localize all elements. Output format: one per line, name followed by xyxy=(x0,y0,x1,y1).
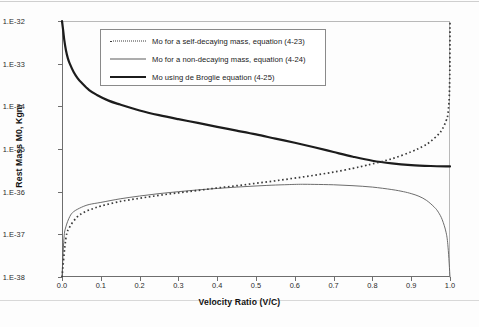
x-tick-mark xyxy=(140,277,141,281)
legend-swatch-thick-line-icon xyxy=(110,72,146,82)
y-tick-label: 1.E-34 xyxy=(3,102,25,111)
x-tick-mark xyxy=(450,277,451,281)
legend-swatch-thin-line-icon xyxy=(110,54,146,64)
x-tick-label: 0.1 xyxy=(86,281,116,290)
x-tick-label: 0.3 xyxy=(163,281,193,290)
chart-legend: Mo for a self-decaying mass, equation (4… xyxy=(100,29,326,86)
y-tick-label: 1.E-32 xyxy=(3,17,25,26)
x-tick-mark xyxy=(372,277,373,281)
legend-label-self-decaying: Mo for a self-decaying mass, equation (4… xyxy=(152,37,305,46)
x-tick-label: 0.0 xyxy=(47,281,77,290)
legend-entry-self-decaying: Mo for a self-decaying mass, equation (4… xyxy=(101,32,325,50)
legend-label-non-decaying: Mo for a non-decaying mass, equation (4-… xyxy=(152,55,306,64)
x-tick-mark xyxy=(411,277,412,281)
x-tick-mark xyxy=(295,277,296,281)
x-tick-mark xyxy=(217,277,218,281)
x-tick-mark xyxy=(334,277,335,281)
x-axis-title: Velocity Ratio (V/C) xyxy=(0,297,479,307)
x-tick-label: 0.8 xyxy=(357,281,387,290)
y-tick-label: 1.E-33 xyxy=(3,60,25,69)
legend-label-de-broglie: Mo using de Broglie equation (4-25) xyxy=(152,73,274,82)
x-tick-mark xyxy=(101,277,102,281)
y-tick-label: 1.E-36 xyxy=(3,188,25,197)
x-tick-label: 0.9 xyxy=(396,281,426,290)
legend-swatch-dotted-icon xyxy=(110,36,146,46)
x-tick-mark xyxy=(256,277,257,281)
y-tick-label: 1.E-35 xyxy=(3,145,25,154)
x-tick-label: 1.0 xyxy=(435,281,465,290)
x-tick-mark xyxy=(178,277,179,281)
chart-figure: Rest Mass M0, Kgm Velocity Ratio (V/C) 1… xyxy=(0,0,479,327)
x-tick-label: 0.2 xyxy=(125,281,155,290)
x-tick-label: 0.5 xyxy=(241,281,271,290)
y-tick-label: 1.E-38 xyxy=(3,273,25,282)
x-tick-label: 0.4 xyxy=(202,281,232,290)
y-tick-label: 1.E-37 xyxy=(3,230,25,239)
legend-entry-de-broglie: Mo using de Broglie equation (4-25) xyxy=(101,68,325,86)
series-line-non-decaying xyxy=(62,184,450,277)
x-tick-label: 0.7 xyxy=(319,281,349,290)
figure-top-border xyxy=(0,1,479,2)
legend-entry-non-decaying: Mo for a non-decaying mass, equation (4-… xyxy=(101,50,325,68)
x-tick-mark xyxy=(62,277,63,281)
x-tick-label: 0.6 xyxy=(280,281,310,290)
